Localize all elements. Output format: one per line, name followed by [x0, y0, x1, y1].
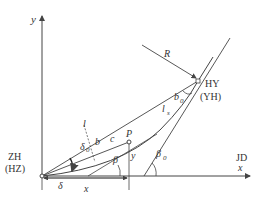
beta0-label: β — [155, 148, 161, 159]
ls-label: l — [162, 103, 165, 114]
radius-label: R — [163, 48, 170, 59]
y-dim-label: y — [130, 150, 136, 161]
beta0-sub: 0 — [163, 154, 167, 162]
beta0-arc — [152, 163, 156, 176]
spiral-curve — [42, 57, 213, 176]
chord-l-label: l — [83, 118, 86, 129]
p-label: P — [125, 128, 132, 139]
l-marker — [84, 125, 95, 162]
b-label: b — [95, 136, 100, 147]
c-label: c — [110, 133, 115, 144]
ls-sub: s — [167, 109, 170, 117]
hz-label: (HZ) — [5, 163, 25, 175]
zh-label: ZH — [8, 151, 21, 162]
y-axis-label: y — [30, 13, 36, 25]
beta-arc — [118, 165, 120, 176]
p-point — [127, 140, 131, 144]
delta0-label: δ — [80, 141, 85, 152]
b0-sub: 0 — [180, 97, 184, 105]
yh-label: (YH) — [200, 91, 221, 103]
hy-label: HY — [205, 78, 219, 89]
delta0-sub: 0 — [86, 146, 90, 154]
spiral-diagram: y JD x ZH (HZ) HY (YH) P R l l s δ 0 δ b… — [0, 0, 262, 197]
x-axis-label: x — [237, 162, 243, 173]
beta-label: β — [112, 154, 118, 165]
b0-label: b — [174, 91, 179, 102]
hy-point — [196, 79, 200, 83]
delta-label: δ — [58, 180, 63, 191]
x-dim-label: x — [83, 183, 89, 194]
zh-point — [40, 174, 44, 178]
